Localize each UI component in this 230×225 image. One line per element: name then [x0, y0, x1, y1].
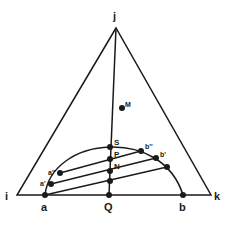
point-a-prime	[48, 181, 54, 187]
point-s	[107, 144, 113, 150]
label-b: b	[179, 201, 186, 213]
label-a-double-prime: a''	[48, 169, 56, 176]
label-a-prime: a'	[40, 180, 46, 187]
label-j: j	[112, 10, 116, 22]
label-b-prime: b'	[160, 151, 166, 158]
point-b-prime	[153, 155, 159, 161]
point-b-third	[164, 164, 170, 170]
point-n	[107, 168, 113, 174]
ternary-diagram: j i k M S P N Q a b a' a'' b' b''	[0, 0, 230, 225]
point-b-double-prime	[138, 148, 144, 154]
tie-line-1	[60, 151, 141, 173]
point-lower	[107, 178, 113, 184]
point-q	[106, 192, 112, 198]
label-q: Q	[104, 201, 113, 213]
point-a	[42, 192, 48, 198]
label-i: i	[5, 190, 8, 202]
point-a-double-prime	[57, 170, 63, 176]
label-k: k	[214, 190, 221, 202]
label-n: N	[114, 162, 120, 171]
point-b	[180, 192, 186, 198]
point-p	[107, 156, 113, 162]
label-a: a	[41, 201, 48, 213]
label-p: P	[114, 150, 120, 159]
label-s: S	[114, 138, 120, 147]
label-m: M	[125, 101, 131, 108]
label-b-double-prime: b''	[145, 143, 153, 150]
